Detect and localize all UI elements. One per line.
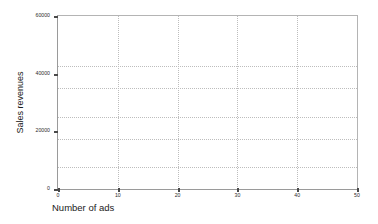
gridline-horizontal-40000 bbox=[58, 88, 357, 89]
x-axis-tick-label: 40 bbox=[294, 193, 300, 198]
y-tick-mark-icon bbox=[54, 16, 58, 18]
gridline-vertical-30 bbox=[237, 16, 238, 189]
gridline-vertical-20 bbox=[178, 16, 179, 189]
plot-area: 60000 40000 20000 0 0 10 20 30 bbox=[57, 15, 358, 190]
gridline-vertical-40 bbox=[297, 16, 298, 189]
y-axis-title: Sales revenues bbox=[13, 50, 27, 155]
y-axis-title-text: Sales revenues bbox=[16, 71, 25, 133]
gridline-horizontal-10000 bbox=[58, 167, 357, 168]
y-tick-mark-icon bbox=[54, 131, 58, 133]
x-axis-tick-label: 30 bbox=[235, 193, 241, 198]
y-tick-mark-icon bbox=[54, 74, 58, 76]
x-axis-tick-label: 20 bbox=[175, 193, 181, 198]
x-axis-tick-label: 0 bbox=[57, 193, 60, 198]
y-axis-tick-label: 0 bbox=[6, 186, 50, 191]
x-axis-tick-label: 10 bbox=[115, 193, 121, 198]
gridline-vertical-10 bbox=[118, 16, 119, 189]
gridline-horizontal-30000 bbox=[58, 117, 357, 118]
gridline-horizontal-50000 bbox=[58, 66, 357, 67]
x-axis-title: Number of ads bbox=[52, 203, 114, 213]
y-axis-tick-label: 60000 bbox=[6, 13, 50, 18]
gridline-horizontal-20000 bbox=[58, 139, 357, 140]
chart-figure: 60000 40000 20000 0 0 10 20 30 bbox=[0, 0, 378, 224]
x-axis-tick-label: 50 bbox=[354, 193, 360, 198]
